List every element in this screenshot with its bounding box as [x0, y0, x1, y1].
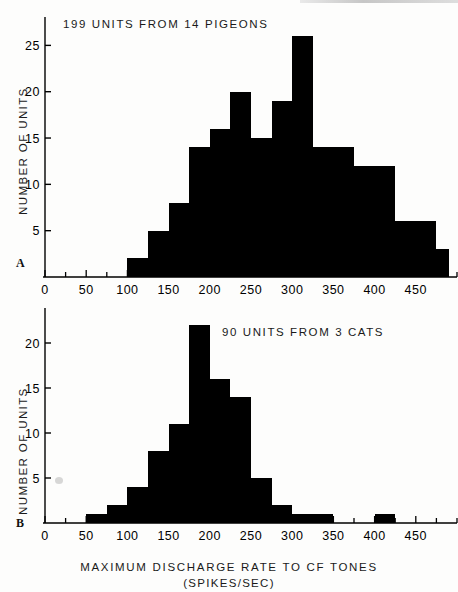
histogram-bar [169, 424, 190, 523]
histogram-bar [354, 166, 375, 277]
panel-b-y-axis-label: NUMBER OF UNITS [17, 387, 29, 515]
x-tick-label: 200 [199, 283, 221, 295]
x-tick-label: 100 [116, 283, 138, 295]
histogram-bar [272, 101, 293, 277]
histogram-bars [86, 325, 395, 523]
panel-b-title: 90 UNITS FROM 3 CATS [222, 326, 384, 338]
x-tick-label: 150 [157, 529, 179, 543]
x-tick-label: 100 [116, 529, 138, 543]
histogram-bars [127, 36, 448, 277]
x-tick-label: 300 [281, 283, 303, 295]
x-tick-label: 250 [240, 529, 262, 543]
histogram-bar [313, 514, 334, 523]
x-axis-label-main: MAXIMUM DISCHARGE RATE TO CF TONES [0, 561, 458, 573]
panel-b: 5101520050100150200250300350400450 [0, 295, 458, 592]
histogram-bar [333, 147, 354, 277]
x-tick-label: 150 [157, 283, 179, 295]
histogram-bar [230, 92, 251, 277]
histogram-bar [148, 231, 169, 277]
histogram-bar [189, 325, 210, 523]
histogram-bar [375, 166, 396, 277]
histogram-bar [210, 129, 231, 277]
x-tick-label: 350 [322, 283, 344, 295]
histogram-bar [375, 514, 396, 523]
histogram-bar [127, 487, 148, 523]
histogram-bar [313, 147, 334, 277]
panel-a-title: 199 UNITS FROM 14 PIGEONS [63, 18, 269, 30]
histogram-bar [292, 514, 313, 523]
x-tick-label: 450 [405, 283, 427, 295]
x-tick-label: 250 [240, 283, 262, 295]
histogram-bar [251, 138, 272, 277]
svg-a-content: 510152025050100150200250300350400450 [25, 17, 457, 295]
x-tick-label: 350 [322, 529, 344, 543]
histogram-bar [416, 221, 437, 277]
y-tick-label: 5 [33, 472, 40, 486]
x-tick-label: 0 [41, 529, 48, 543]
panel-b-letter: B [16, 516, 24, 531]
panel-a: 510152025050100150200250300350400450 [0, 0, 458, 295]
x-tick-label: 50 [79, 283, 94, 295]
histogram-bar [148, 451, 169, 523]
figure-histograms: 510152025050100150200250300350400450 NUM… [0, 0, 458, 592]
x-tick-label: 450 [405, 529, 427, 543]
histogram-bar [86, 514, 107, 523]
histogram-bar [395, 221, 416, 277]
panel-b-plot: 5101520050100150200250300350400450 [0, 295, 458, 592]
x-tick-label: 300 [281, 529, 303, 543]
x-tick-label: 200 [199, 529, 221, 543]
x-tick-label: 400 [363, 529, 385, 543]
x-tick-label: 50 [79, 529, 94, 543]
histogram-bar [292, 36, 313, 277]
histogram-bar [210, 379, 231, 523]
histogram-bar [230, 397, 251, 523]
y-tick-label: 5 [33, 224, 40, 238]
histogram-bar [189, 147, 210, 277]
x-tick-label: 400 [363, 283, 385, 295]
histogram-bar [107, 505, 128, 523]
panel-a-plot: 510152025050100150200250300350400450 [0, 0, 458, 295]
y-tick-label: 25 [25, 39, 40, 53]
histogram-bar [251, 478, 272, 523]
svg-b-content: 5101520050100150200250300350400450 [25, 308, 457, 543]
panel-a-y-axis-label: NUMBER OF UNITS [17, 87, 29, 215]
y-tick-label: 20 [25, 337, 40, 351]
histogram-bar [272, 505, 293, 523]
x-tick-label: 0 [41, 283, 48, 295]
histogram-bar [127, 258, 148, 277]
x-axis-label-units: (SPIKES/SEC) [0, 577, 458, 589]
panel-a-letter: A [16, 256, 25, 271]
histogram-bar [169, 203, 190, 277]
